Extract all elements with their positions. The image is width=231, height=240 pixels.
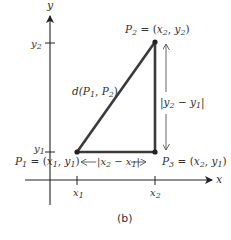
y2-tick-label: y2 <box>30 38 42 51</box>
x-axis-label: x <box>216 173 223 186</box>
x2-tick-label: x2 <box>150 187 161 200</box>
y-axis-label: y <box>46 0 54 12</box>
p2-label: P2 = (x2, y2) <box>124 23 190 37</box>
point-p3 <box>152 149 157 154</box>
distance-label: d(P1, P2) <box>72 85 118 99</box>
hypotenuse-line <box>77 42 155 152</box>
point-p1 <box>74 149 79 154</box>
distance-diagram: y x y2 y1 x1 x2 P2 = (x2, y2) P1 = (x1, … <box>0 0 231 240</box>
horizontal-diff-label: |x2 − x1| <box>97 156 140 169</box>
point-p2 <box>152 39 157 44</box>
p3-label: P3 = (x2, y1) <box>161 155 227 169</box>
p1-label: P1 = (x1, y1) <box>14 155 80 169</box>
vertical-diff-label: |y2 − y1| <box>160 96 205 110</box>
x1-tick-label: x1 <box>73 187 84 200</box>
figure-caption: (b) <box>117 212 133 225</box>
